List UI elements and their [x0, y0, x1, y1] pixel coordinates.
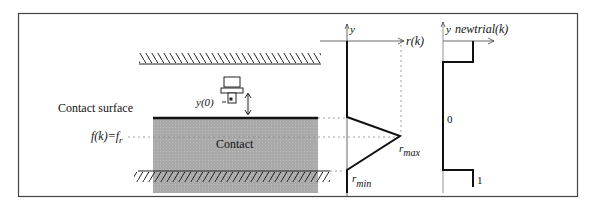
distance-double-arrow-icon — [245, 93, 251, 115]
contact-region-label: Contact — [216, 137, 254, 151]
newtrial-axis-label: newtrial(k) — [455, 22, 508, 36]
rmax-label: rmax — [399, 142, 421, 158]
bottom-wall — [134, 171, 330, 182]
right-plot — [441, 22, 494, 193]
rk-axis-label: r(k) — [406, 34, 424, 48]
value-zero-label: 0 — [447, 113, 453, 125]
y0-label: y(0) — [195, 96, 214, 109]
middle-plot — [320, 24, 404, 196]
probe-icon — [221, 77, 243, 103]
rmin-label: rmin — [352, 172, 371, 189]
r-profile-curve — [347, 41, 400, 193]
contact-surface-label: Contact surface — [58, 101, 133, 115]
fk-label: f(k)=fr — [91, 129, 123, 145]
contact-diagram: Contact surface Contact y(0) f(k)=fr y r… — [0, 0, 596, 215]
top-wall — [139, 53, 321, 64]
value-one-label: 1 — [477, 174, 483, 186]
right-y-axis-label: y — [445, 23, 451, 35]
middle-y-axis-label: y — [349, 23, 355, 35]
